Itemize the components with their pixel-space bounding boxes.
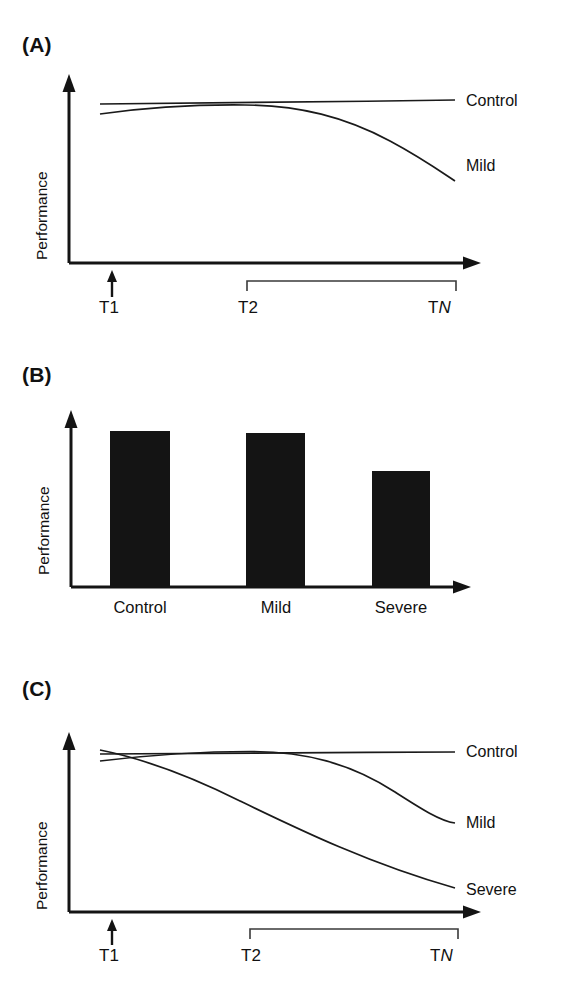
panel-c-xtick-tn: TN <box>430 947 453 964</box>
panel-b: (B) Performance Control Mild Severe <box>0 340 565 640</box>
panel-c-series-label-control: Control <box>466 744 518 760</box>
panel-a-xtick-tn-n: N <box>438 298 450 317</box>
panel-c-xtick-tn-n: N <box>440 946 452 965</box>
panel-a-xtick-tn: TN <box>428 299 451 316</box>
panel-a-series-label-mild: Mild <box>466 158 495 174</box>
panel-b-category-label-mild: Mild <box>261 599 291 616</box>
panel-c-series-label-severe: Severe <box>466 882 517 898</box>
panel-c-xtick-t2: T2 <box>241 947 261 964</box>
panel-a-series-control-curve <box>100 100 455 104</box>
panel-a-xtick-t2: T2 <box>238 299 258 316</box>
panel-c-y-axis-arrowhead <box>63 732 76 750</box>
panel-a-y-axis-arrowhead <box>63 74 76 92</box>
panel-c-series-mild-curve <box>100 752 455 824</box>
panel-c-x-axis-arrowhead <box>463 906 481 919</box>
panel-c-xtick-tn-t: T <box>430 946 440 965</box>
panel-c-followup-bracket <box>250 929 458 939</box>
panel-b-plot <box>0 340 565 640</box>
panel-c-series-severe-curve <box>100 750 455 888</box>
panel-a-xtick-t1: T1 <box>99 299 119 316</box>
panel-b-bar-control <box>110 431 170 587</box>
panel-b-y-axis-arrowhead <box>65 410 78 428</box>
panel-a-followup-bracket <box>247 281 456 291</box>
panel-b-bar-severe <box>372 471 430 587</box>
panel-a-x-axis-arrowhead <box>463 257 481 270</box>
panel-a: (A) Performance T1 T2 TN Control Mild <box>0 0 565 340</box>
panel-b-category-label-severe: Severe <box>375 599 427 616</box>
panel-c-xtick-t1: T1 <box>99 947 119 964</box>
panel-a-series-label-control: Control <box>466 93 518 109</box>
panel-a-t1-arrow-head <box>107 270 117 282</box>
panel-c-t1-arrow-head <box>107 919 117 931</box>
panel-b-category-label-control: Control <box>113 599 166 616</box>
panel-a-xtick-tn-t: T <box>428 298 438 317</box>
panel-c-series-label-mild: Mild <box>466 815 495 831</box>
panel-c: (C) Performance T1 T2 TN Control Mild <box>0 640 565 994</box>
panel-b-bar-mild <box>246 433 305 587</box>
panel-b-x-axis-arrowhead <box>453 581 471 594</box>
figure-root: (A) Performance T1 T2 TN Control Mild ( <box>0 0 565 994</box>
panel-a-series-mild-curve <box>100 105 455 181</box>
